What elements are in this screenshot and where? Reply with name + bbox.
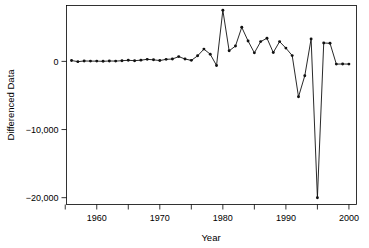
data-point bbox=[146, 58, 149, 61]
data-point bbox=[291, 54, 294, 57]
data-point bbox=[152, 58, 155, 61]
data-point bbox=[76, 60, 79, 63]
data-point bbox=[165, 58, 168, 61]
data-point bbox=[247, 39, 250, 42]
data-point bbox=[95, 60, 98, 63]
plot-frame bbox=[67, 6, 357, 205]
series-line bbox=[72, 10, 349, 197]
x-tick-label: 1990 bbox=[276, 213, 296, 223]
data-point bbox=[89, 60, 92, 63]
data-point bbox=[303, 74, 306, 77]
x-tick-label: 1960 bbox=[87, 213, 107, 223]
y-tick-label: −10,000 bbox=[26, 125, 59, 135]
data-point bbox=[133, 59, 136, 62]
data-point bbox=[202, 48, 205, 51]
data-point bbox=[266, 37, 269, 40]
x-tick-label: 2000 bbox=[339, 213, 359, 223]
y-axis: 0−10,000−20,000 bbox=[26, 57, 67, 203]
chart-figure: 0−10,000−20,000 19601970198019902000 Yea… bbox=[0, 0, 369, 248]
data-series bbox=[70, 9, 350, 199]
data-point bbox=[70, 59, 73, 62]
data-point bbox=[316, 196, 319, 199]
data-point bbox=[102, 60, 105, 63]
data-point bbox=[209, 53, 212, 56]
data-point bbox=[310, 37, 313, 40]
data-point bbox=[240, 26, 243, 29]
data-point bbox=[108, 60, 111, 63]
data-point bbox=[215, 64, 218, 67]
data-point bbox=[158, 59, 161, 62]
data-point bbox=[184, 58, 187, 61]
data-point bbox=[83, 60, 86, 63]
x-axis-title: Year bbox=[201, 232, 220, 243]
data-point bbox=[121, 59, 124, 62]
data-point bbox=[190, 59, 193, 62]
data-point bbox=[127, 59, 130, 62]
data-point bbox=[177, 55, 180, 58]
x-tick-label: 1970 bbox=[150, 213, 170, 223]
y-tick-label: −20,000 bbox=[26, 193, 59, 203]
data-point bbox=[221, 9, 224, 12]
data-point bbox=[335, 63, 338, 66]
data-point bbox=[196, 54, 199, 57]
data-point bbox=[347, 63, 350, 66]
data-point bbox=[253, 51, 256, 54]
y-axis-title: Differenced Data bbox=[5, 69, 16, 141]
y-tick-label: 0 bbox=[53, 57, 58, 67]
data-point bbox=[278, 40, 281, 43]
data-point bbox=[114, 60, 117, 63]
data-point bbox=[228, 49, 231, 52]
data-point bbox=[297, 95, 300, 98]
data-point bbox=[284, 47, 287, 50]
x-axis: 19601970198019902000 bbox=[65, 205, 359, 223]
data-point bbox=[234, 45, 237, 48]
data-point bbox=[329, 42, 332, 45]
data-point bbox=[341, 63, 344, 66]
x-tick-label: 1980 bbox=[213, 213, 233, 223]
data-point bbox=[259, 40, 262, 43]
differenced-data-line-chart: 0−10,000−20,000 19601970198019902000 Yea… bbox=[0, 0, 369, 248]
data-point bbox=[272, 51, 275, 54]
data-point bbox=[171, 58, 174, 61]
data-point bbox=[322, 42, 325, 45]
data-point bbox=[139, 59, 142, 62]
